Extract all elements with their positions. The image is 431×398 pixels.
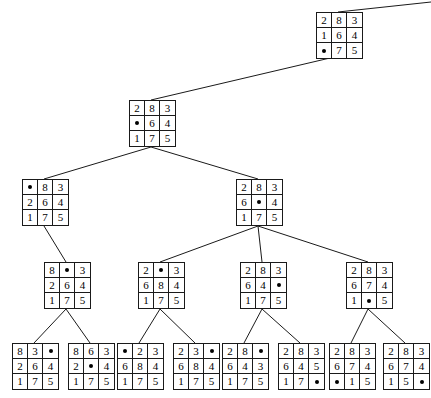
tile: 5 [148,374,163,389]
puzzle-state-node: 83264175 [44,262,91,309]
tree-edge [44,226,66,262]
blank-tile [43,344,58,359]
tile: 8 [399,344,414,359]
tile: 7 [332,43,347,58]
tile: 3 [414,344,429,359]
tile: 3 [253,359,268,374]
tile: 8 [256,263,271,278]
tile: 7 [256,293,271,308]
tile: 6 [118,359,133,374]
tile: 1 [130,131,145,146]
blank-tile [23,180,38,195]
tile: 2 [174,344,189,359]
tree-edge [160,226,258,262]
tile: 7 [60,293,75,308]
search-tree-figure: 2831647528364175832641752836417583264175… [0,0,431,398]
blank-tile [362,293,377,308]
puzzle-state-node: 28316475 [316,12,363,59]
tile: 4 [160,116,175,131]
tile: 6 [145,116,160,131]
tile: 6 [174,359,189,374]
blank-tile [118,344,133,359]
tile: 7 [84,374,99,389]
puzzle-state-node: 28364175 [129,100,176,147]
tile: 2 [317,13,332,28]
tree-edge [338,2,431,12]
tile: 7 [38,210,53,225]
tile: 4 [148,359,163,374]
tile: 8 [69,344,84,359]
tree-edge [151,147,258,179]
puzzle-state-node: 28367415 [346,262,393,309]
tile: 5 [271,293,286,308]
tile: 5 [75,293,90,308]
tile: 2 [279,344,294,359]
tree-edge [351,309,368,343]
tile: 5 [253,374,268,389]
tile: 4 [414,359,429,374]
blank-tile [204,344,219,359]
tile: 4 [75,278,90,293]
tile: 8 [13,344,28,359]
tile: 5 [160,131,175,146]
tree-edge [258,226,368,262]
tile: 5 [347,43,362,58]
blank-tile [60,263,75,278]
puzzle-state-node: 28367415 [329,343,376,390]
tile: 5 [169,293,184,308]
tile: 7 [294,374,309,389]
tile: 3 [377,263,392,278]
tile: 3 [99,344,114,359]
tile: 5 [267,210,282,225]
tile: 6 [38,195,53,210]
tile: 7 [252,210,267,225]
puzzle-state-node: 28367415 [383,343,430,390]
tile: 3 [148,344,163,359]
tile: 2 [347,263,362,278]
puzzle-state-node: 23684175 [117,343,164,390]
tile: 2 [223,344,238,359]
tile: 7 [28,374,43,389]
puzzle-state-node: 83264175 [12,343,59,390]
tile: 8 [45,263,60,278]
tile: 2 [133,344,148,359]
tile: 1 [345,374,360,389]
tile: 3 [267,180,282,195]
tile: 1 [69,374,84,389]
puzzle-state-node: 23684175 [173,343,220,390]
tile: 2 [384,344,399,359]
tile: 8 [145,101,160,116]
puzzle-state-node: 28364517 [278,343,325,390]
tile: 1 [241,293,256,308]
tile: 8 [362,263,377,278]
blank-tile [330,374,345,389]
tree-edge [160,309,195,343]
tile: 6 [332,28,347,43]
tree-edge [139,309,160,343]
tile: 4 [169,278,184,293]
tile: 2 [241,263,256,278]
tile: 8 [252,180,267,195]
tile: 5 [309,359,324,374]
tile: 6 [139,278,154,293]
tile: 6 [384,359,399,374]
tile: 3 [75,263,90,278]
tile: 5 [399,374,414,389]
tile: 2 [13,359,28,374]
tile: 4 [99,359,114,374]
tile: 4 [204,359,219,374]
tile: 8 [133,359,148,374]
blank-tile [130,116,145,131]
tree-edge [66,309,90,343]
tile: 7 [238,374,253,389]
tile: 2 [139,263,154,278]
tile: 4 [360,359,375,374]
tile: 2 [330,344,345,359]
tile: 3 [360,344,375,359]
blank-tile [84,359,99,374]
puzzle-state-node: 86324175 [68,343,115,390]
tile: 7 [154,293,169,308]
tile: 3 [28,344,43,359]
tile: 7 [145,131,160,146]
blank-tile [271,278,286,293]
